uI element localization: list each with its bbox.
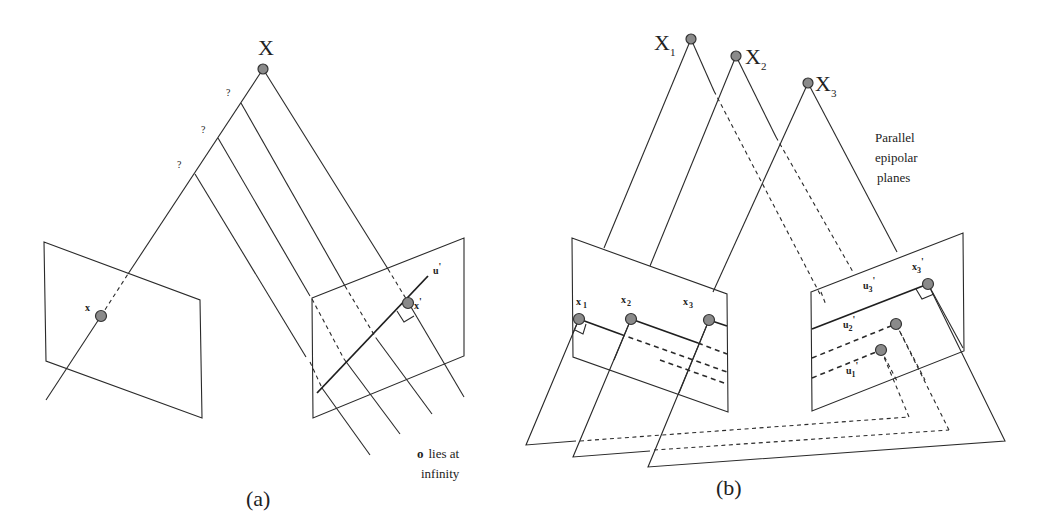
caption-b: (b) [716,475,742,500]
right-angle-marker [397,311,414,322]
epipolar-plane-2-ray-lower [573,319,650,457]
epipolar-plane-2-ray-hidden [776,137,853,272]
label-x2: x2 [621,294,631,308]
image-point-x-prime [403,298,414,309]
left-image-plane [44,242,202,418]
epipolar-plane-1-ray-lower [526,319,579,445]
epipolar-plane-3-ray-lower [648,284,1005,467]
world-point-X3 [803,78,813,88]
label-x: x [85,302,90,313]
image-point-u1-prime [876,345,887,356]
world-point-X [258,64,268,74]
epipolar-plane-2-edge-left [650,56,736,266]
label-x-prime: x' [414,296,422,311]
parallel-ray-4-hidden [310,362,322,388]
unknown-depth-mark-3: ? [177,159,182,170]
back-projected-ray-hidden [101,274,128,316]
left-epipolar-dash-3 [660,360,727,384]
label-X3: X3 [815,71,837,99]
parallel-ray-3-hidden [312,299,344,359]
epipolar-geometry-figure: X x x' u' ? ? ? olies at infinity (a) [0,0,1062,529]
unknown-depth-mark-1: ? [226,87,231,98]
label-x3-prime: x3' [912,256,924,275]
epipolar-plane-1-right-hidden [881,350,909,417]
epipolar-plane-1-ray-hidden [714,91,821,296]
parallel-ray-1-lower [408,302,464,397]
epipolar-plane-3-edge-left [713,83,808,292]
left-epipolar-dash-2 [698,343,727,354]
parallel-ray-1-hidden [388,269,408,302]
unknown-depth-mark-2: ? [201,124,206,135]
parallel-ray-1-upper [263,69,388,269]
note-infinity: infinity [421,466,460,481]
panel-b: X1 X2 X3 x1 x2 x3 x3' u3' u2' u1' [526,30,1005,500]
parallel-ray-3-upper [218,138,310,296]
parallel-ray-2-upper [241,103,345,286]
ray-x2-lower [614,319,631,360]
image-point-x3-prime [923,279,934,290]
label-x3: x3 [683,296,693,310]
note-parallel: Parallel [875,130,915,145]
caption-a: (a) [246,486,270,511]
epipolar-plane-2-bottom-hidden [654,430,949,450]
epipolar-plane-1-edge-left [604,39,691,248]
note-o-lies-at: olies at [417,446,460,461]
epipolar-plane-3-edge-right [808,83,897,252]
right-image-plane-b [811,233,964,411]
label-X: X [258,35,274,60]
epipolar-plane-1-bottom-hidden [580,417,909,441]
right-plane-hidden-ray-3 [821,292,826,305]
parallel-ray-3-lower [344,359,400,434]
label-X2: X2 [745,44,766,72]
image-point-x2 [626,314,637,325]
note-planes: planes [877,170,910,185]
image-point-x1 [574,314,585,325]
image-point-x [96,311,107,322]
note-epipolar: epipolar [875,150,918,165]
back-projected-ray-lower [46,316,101,400]
parallel-ray-4-upper [195,174,306,357]
parallel-ray-2-hidden [345,286,376,338]
label-x1: x1 [576,296,587,310]
epipolar-line-u-prime [317,276,428,393]
panel-a: X x x' u' ? ? ? olies at infinity (a) [44,35,464,511]
ray-x3-prime-visible [928,284,963,348]
image-point-u2-prime [891,319,902,330]
epipolar-plane-1-edge-right [691,39,714,91]
left-epipolar-line-2 [631,319,698,343]
back-projected-ray-upper [128,69,263,274]
world-point-X2 [731,51,741,61]
image-point-x3 [704,315,715,326]
label-u3-prime: u3' [863,275,876,294]
world-point-X1 [686,34,696,44]
label-X1: X1 [654,30,675,58]
parallel-ray-2-lower [376,338,432,414]
left-epipolar-dash-1 [620,334,727,372]
label-u-prime: u' [433,261,442,276]
